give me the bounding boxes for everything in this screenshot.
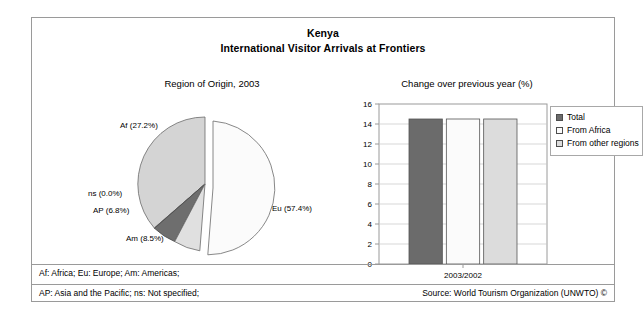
screenshot-root: Kenya International Visitor Arrivals at … xyxy=(0,0,643,319)
y-axis-tick-label: 4 xyxy=(368,220,373,229)
pie-label-ns: ns (0.0%) xyxy=(88,189,122,199)
legend-swatch-total xyxy=(556,114,563,121)
page-title: Kenya xyxy=(32,26,614,41)
source-note: Source: World Tourism Organization (UNWT… xyxy=(422,288,607,298)
y-axis-tick-label: 6 xyxy=(368,200,373,209)
title-block: Kenya International Visitor Arrivals at … xyxy=(32,26,614,56)
page-subtitle: International Visitor Arrivals at Fronti… xyxy=(32,41,614,56)
y-axis-tick-label: 16 xyxy=(363,100,372,109)
pie-label-af: Af (27.2%) xyxy=(120,121,158,131)
report-panel: Kenya International Visitor Arrivals at … xyxy=(31,17,615,302)
abbreviation-note-line-2: AP: Asia and the Pacific; ns: Not specif… xyxy=(39,288,199,298)
legend-swatch-from-africa xyxy=(556,127,563,134)
bar-series-group xyxy=(409,119,517,264)
legend-item-from-africa[interactable]: From Africa xyxy=(556,124,638,137)
y-axis-tick-label: 12 xyxy=(363,140,372,149)
pie-label-ap: AP (6.8%) xyxy=(93,206,129,216)
bar-from-other-regions[interactable] xyxy=(484,119,517,264)
pie-label-eu: Eu (57.4%) xyxy=(272,204,312,214)
legend-swatch-from-other-regions xyxy=(556,140,563,147)
legend-label-total: Total xyxy=(567,111,585,124)
legend-item-from-other-regions[interactable]: From other regions xyxy=(556,137,638,150)
bar-total[interactable] xyxy=(409,119,442,264)
y-axis-tick-label: 14 xyxy=(363,120,372,129)
y-axis-tick-label: 10 xyxy=(363,160,372,169)
bar-chart-legend: Total From Africa From other regions xyxy=(550,106,643,156)
legend-label-from-africa: From Africa xyxy=(567,124,610,137)
legend-item-total[interactable]: Total xyxy=(556,111,638,124)
bar-chart-svg: 0246810121416 2003/2002 xyxy=(357,96,557,281)
bar-from-africa[interactable] xyxy=(446,119,479,264)
bar-chart-caption: Change over previous year (%) xyxy=(362,78,572,89)
pie-chart: Af (27.2%) ns (0.0%) AP (6.8%) Am (8.5%)… xyxy=(87,96,337,261)
abbreviation-note-line-1: Af: Africa; Eu: Europe; Am: Americas; xyxy=(39,268,179,278)
footer-divider-top xyxy=(32,264,614,265)
pie-chart-caption: Region of Origin, 2003 xyxy=(92,78,332,89)
bar-y-axis-labels: 0246810121416 xyxy=(363,100,372,269)
bar-chart: 0246810121416 2003/2002 xyxy=(357,96,557,281)
bar-x-axis-label: 2003/2002 xyxy=(444,271,482,280)
y-axis-tick-label: 8 xyxy=(368,180,373,189)
y-axis-tick-label: 2 xyxy=(368,240,373,249)
footer-divider-bottom xyxy=(32,284,614,285)
legend-label-from-other-regions: From other regions xyxy=(567,137,639,150)
pie-label-am: Am (8.5%) xyxy=(126,234,164,244)
pie-slice-eu xyxy=(208,121,275,255)
